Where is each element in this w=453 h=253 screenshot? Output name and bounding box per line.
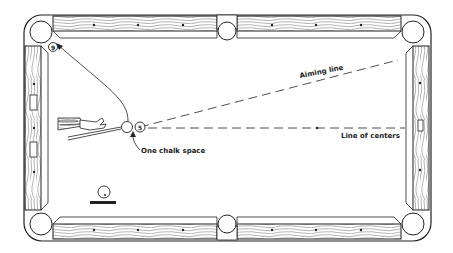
svg-text:5: 5 — [138, 124, 142, 131]
pocket-bottom-left — [30, 213, 52, 235]
line-of-centers-label: Line of centers — [341, 132, 400, 140]
pool-table-diagram: 9 5 Aiming line Line of centers One chal… — [0, 0, 453, 253]
pocket-bottom-right — [402, 213, 424, 235]
target-ball-9: 9 — [49, 43, 58, 52]
pocket-top-middle — [217, 15, 237, 40]
pocket-top-right — [402, 21, 424, 43]
pocket-bottom-middle — [217, 215, 237, 240]
spot-mark — [316, 127, 319, 130]
cue-ball — [122, 122, 133, 133]
pocket-top-left — [30, 21, 52, 43]
object-ball-5: 5 — [135, 122, 145, 132]
one-chalk-space-label: One chalk space — [141, 147, 206, 155]
svg-text:9: 9 — [51, 44, 55, 51]
